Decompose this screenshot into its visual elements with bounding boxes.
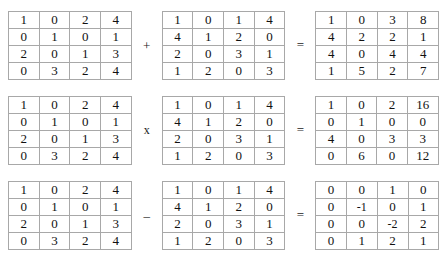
matrix-cell: 1 (162, 147, 193, 164)
matrix-cell: 2 (162, 45, 193, 62)
matrix-cell: 7 (408, 62, 439, 79)
matrix-cell: 0 (316, 198, 346, 215)
matrix-row: 4221 (316, 28, 439, 45)
matrix-a-multiplication: 1024010120130324 (8, 96, 132, 165)
equation-row-multiplication: 1024010120130324x1014412020311203=102160… (0, 91, 439, 169)
matrix-cell: 0 (223, 232, 254, 249)
matrix-row: 2031 (162, 45, 285, 62)
matrix-cell: 2 (223, 28, 254, 45)
matrix-cell: -2 (377, 215, 408, 232)
matrix-operations-sheet: 1024010120130324+1014412020311203=103842… (0, 0, 439, 260)
matrix-row: 4044 (316, 45, 439, 62)
matrix-cell: 3 (254, 62, 285, 79)
matrix-cell: 4 (100, 232, 131, 249)
matrix-row: 1203 (162, 147, 285, 164)
matrix-cell: 1 (162, 181, 193, 198)
matrix-row: 2013 (9, 45, 132, 62)
matrix-row: 2031 (162, 130, 285, 147)
matrix-row: 0324 (9, 232, 132, 249)
matrix-cell: 4 (408, 45, 439, 62)
matrix-cell: 1 (254, 215, 285, 232)
matrix-row: 0101 (9, 198, 132, 215)
matrix-cell: 4 (254, 96, 285, 113)
matrix-cell: 2 (193, 147, 224, 164)
matrix-cell: 8 (408, 11, 439, 28)
matrix-row: 0101 (9, 28, 132, 45)
matrix-cell: 4 (254, 11, 285, 28)
equation-row-addition: 1024010120130324+1014412020311203=103842… (0, 6, 439, 84)
matrix-cell: 0 (9, 198, 40, 215)
matrix-cell: 3 (223, 215, 254, 232)
matrix-cell: 0 (316, 181, 346, 198)
matrix-cell: 0 (347, 45, 378, 62)
matrix-cell: 0 (70, 198, 101, 215)
matrix-cell: 1 (377, 181, 408, 198)
matrix-cell: 0 (346, 130, 376, 147)
matrix-cell: 2 (70, 181, 101, 198)
matrix-row: 1024 (9, 11, 132, 28)
matrix-cell: 1 (162, 232, 193, 249)
matrix-cell: 0 (193, 215, 224, 232)
matrix-cell: 0 (316, 232, 346, 249)
matrix-b-multiplication: 1014412020311203 (162, 96, 286, 165)
matrix-cell: 3 (377, 11, 408, 28)
matrix-cell: 0 (254, 113, 285, 130)
matrix-cell: 4 (100, 96, 131, 113)
matrix-row: 0121 (316, 232, 439, 249)
matrix-cell: 1 (9, 11, 40, 28)
matrix-cell: 1 (70, 215, 101, 232)
matrix-cell: 1 (346, 232, 377, 249)
matrix-cell: 1 (193, 28, 224, 45)
matrix-row: 4120 (162, 28, 285, 45)
matrix-cell: 0 (346, 96, 376, 113)
matrix-cell: 1 (162, 11, 193, 28)
matrix-cell: 16 (407, 96, 438, 113)
matrix-row: 0101 (9, 113, 132, 130)
equals-sign: = (285, 37, 315, 53)
matrix-cell: 1 (70, 45, 101, 62)
matrix-cell: 0 (408, 181, 438, 198)
matrix-cell: 1 (100, 198, 131, 215)
matrix-cell: 2 (377, 232, 408, 249)
matrix-cell: 12 (407, 147, 438, 164)
matrix-cell: 2 (9, 215, 40, 232)
matrix-cell: 0 (377, 147, 407, 164)
matrix-row: 0324 (9, 147, 132, 164)
matrix-cell: 0 (39, 181, 70, 198)
matrix-cell: 3 (407, 130, 438, 147)
matrix-row: 1203 (162, 62, 285, 79)
matrix-cell: 2 (9, 130, 40, 147)
matrix-cell: 0 (39, 215, 70, 232)
equals-sign: = (285, 122, 315, 138)
matrix-row: 00-22 (316, 215, 439, 232)
matrix-cell: 0 (9, 28, 40, 45)
matrix-row: 0-101 (316, 198, 439, 215)
matrix-cell: 3 (377, 130, 407, 147)
matrix-cell: 1 (193, 198, 224, 215)
matrix-a-addition: 1024010120130324 (8, 11, 132, 80)
matrix-cell: 3 (223, 130, 254, 147)
matrix-result-addition: 1038422140441527 (315, 11, 439, 80)
matrix-row: 2013 (9, 215, 132, 232)
matrix-cell: 0 (39, 130, 70, 147)
matrix-cell: 1 (9, 181, 40, 198)
matrix-cell: 2 (70, 147, 101, 164)
matrix-row: 1014 (162, 96, 285, 113)
matrix-cell: 2 (408, 215, 438, 232)
matrix-cell: 2 (193, 232, 224, 249)
matrix-row: 1038 (316, 11, 439, 28)
matrix-row: 0324 (9, 62, 132, 79)
matrix-cell: 0 (9, 62, 40, 79)
matrix-cell: 2 (70, 62, 101, 79)
matrix-cell: 0 (223, 147, 254, 164)
matrix-cell: 1 (346, 113, 376, 130)
matrix-cell: 3 (254, 232, 285, 249)
matrix-cell: 0 (316, 147, 346, 164)
matrix-cell: 4 (100, 147, 131, 164)
matrix-cell: 2 (193, 62, 224, 79)
matrix-cell: 0 (377, 198, 408, 215)
matrix-cell: 0 (316, 215, 346, 232)
matrix-b-subtraction: 1014412020311203 (162, 181, 286, 250)
matrix-cell: 2 (377, 28, 408, 45)
matrix-row: 06012 (316, 147, 439, 164)
